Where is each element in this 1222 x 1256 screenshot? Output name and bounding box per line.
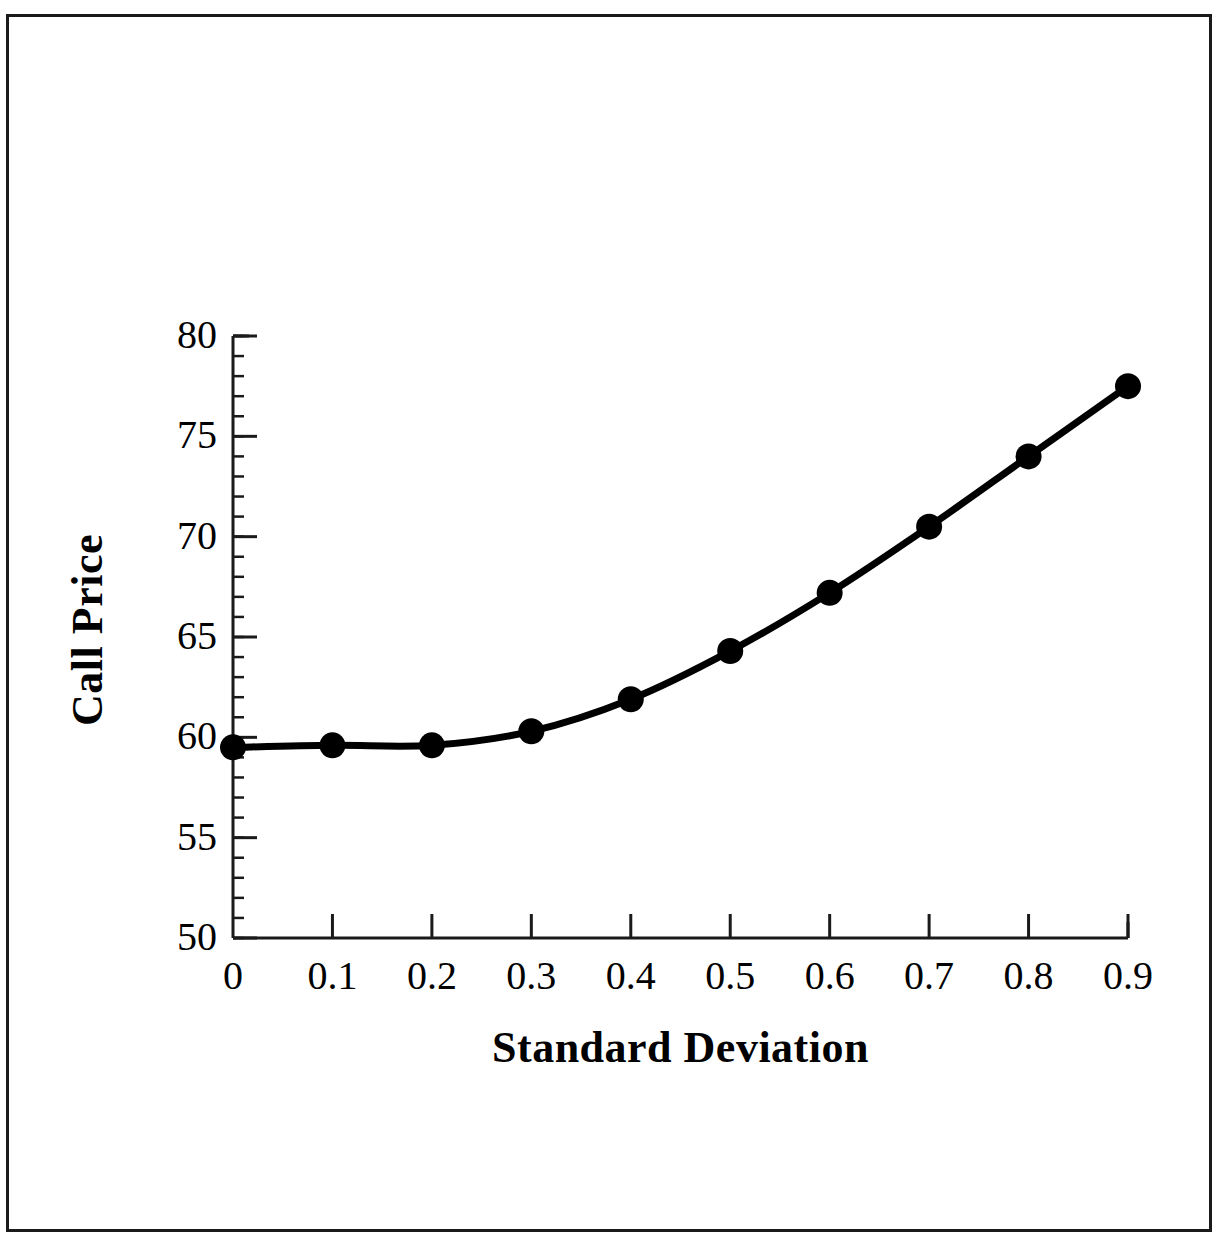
- data-series-line: [233, 386, 1128, 747]
- data-series-markers: [220, 373, 1141, 760]
- y-tick-label: 60: [127, 712, 217, 759]
- y-axis-title: Call Price: [62, 480, 113, 780]
- data-point-marker: [319, 732, 345, 758]
- y-tick-label: 55: [127, 813, 217, 860]
- x-tick-label: 0.8: [979, 952, 1079, 999]
- x-tick-label: 0.6: [780, 952, 880, 999]
- y-axis-major-ticks: [233, 336, 257, 938]
- x-tick-label: 0: [183, 952, 283, 999]
- x-tick-label: 0.1: [282, 952, 382, 999]
- x-tick-label: 0.2: [382, 952, 482, 999]
- data-point-marker: [618, 686, 644, 712]
- y-tick-label: 65: [127, 612, 217, 659]
- data-point-marker: [717, 638, 743, 664]
- data-point-marker: [220, 734, 246, 760]
- data-point-marker: [916, 514, 942, 540]
- x-tick-label: 0.7: [879, 952, 979, 999]
- y-tick-label: 70: [127, 512, 217, 559]
- x-tick-label: 0.3: [481, 952, 581, 999]
- x-tick-label: 0.4: [581, 952, 681, 999]
- x-tick-label: 0.9: [1078, 952, 1178, 999]
- y-tick-label: 75: [127, 411, 217, 458]
- data-point-marker: [1115, 373, 1141, 399]
- x-tick-label: 0.5: [680, 952, 780, 999]
- x-axis-major-ticks: [332, 914, 1128, 938]
- data-point-marker: [419, 732, 445, 758]
- axis-spines: [233, 336, 1128, 938]
- data-point-marker: [518, 718, 544, 744]
- x-axis-title: Standard Deviation: [233, 1022, 1128, 1073]
- data-point-marker: [1016, 443, 1042, 469]
- data-point-marker: [817, 580, 843, 606]
- chart-figure: 50556065707580 00.10.20.30.40.50.60.70.8…: [0, 0, 1222, 1256]
- y-tick-label: 80: [127, 311, 217, 358]
